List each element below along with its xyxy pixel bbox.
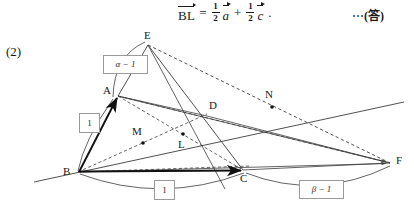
- fraction-denominator: 2: [212, 14, 219, 23]
- point-label-L: L: [178, 139, 185, 150]
- fraction-numerator: 1: [212, 2, 219, 11]
- point-dot-m: [141, 141, 145, 145]
- measure-tag-ab-length: 1: [79, 113, 100, 133]
- figure-svg: [0, 34, 414, 206]
- point-label-M: M: [132, 126, 142, 137]
- point-label-C: C: [240, 173, 247, 184]
- fraction-denominator: 2: [247, 14, 254, 23]
- formula-row: BL = 1 2 a + 1 2 c . ⋯(答): [0, 0, 414, 34]
- geometry-figure: E A B C D F M L N α − 1 1 1 β − 1: [0, 34, 414, 206]
- vector-b-c: [80, 171, 241, 172]
- vector-a-label: a: [223, 4, 230, 22]
- vector-a-f: [120, 97, 386, 162]
- arc-ba-measure: [78, 99, 113, 171]
- segment-e-c: [148, 45, 243, 170]
- point-label-N: N: [265, 89, 273, 100]
- vector-bl-label: BL: [178, 4, 195, 22]
- answer-tag-text: (答): [364, 9, 384, 23]
- measure-tag-beta-text: β − 1: [312, 185, 332, 194]
- fraction-one-half-first: 1 2: [212, 2, 220, 24]
- period: .: [268, 6, 271, 19]
- fraction-one-half-second: 1 2: [246, 2, 254, 24]
- measure-tag-bc-length: 1: [154, 180, 175, 200]
- point-label-F: F: [396, 155, 402, 166]
- point-dot-n: [270, 105, 274, 109]
- answer-tag-dots: ⋯: [352, 9, 364, 23]
- measure-tag-beta-minus-one: β − 1: [299, 180, 344, 199]
- measure-tag-ab-text: 1: [87, 119, 92, 128]
- point-label-E: E: [144, 30, 151, 41]
- measure-tag-alpha-text: α − 1: [116, 60, 136, 69]
- equals-sign: =: [199, 6, 206, 19]
- plus-sign: +: [234, 6, 241, 19]
- fraction-numerator: 1: [247, 2, 254, 11]
- point-dot-l: [181, 132, 185, 136]
- point-label-B: B: [63, 166, 70, 177]
- point-label-D: D: [209, 100, 217, 111]
- vector-c-label: c: [257, 4, 263, 22]
- point-label-A: A: [103, 85, 111, 96]
- measure-tag-alpha-minus-one: α − 1: [103, 55, 148, 74]
- answer-tag: ⋯(答): [352, 6, 384, 24]
- measure-tag-bc-text: 1: [162, 186, 167, 195]
- formula-expression: BL = 1 2 a + 1 2 c .: [178, 2, 275, 24]
- vector-b-a: [79, 98, 117, 172]
